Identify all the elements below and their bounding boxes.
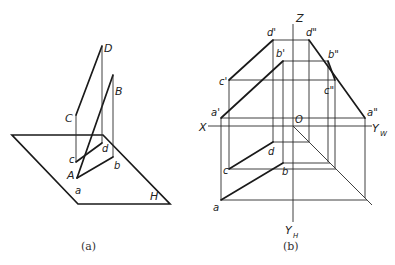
label-c: c [223, 165, 229, 176]
label-a: a [75, 185, 81, 196]
label-YW-sub: W [380, 130, 388, 138]
label-d-dprime: d" [306, 27, 317, 38]
label-H: H [150, 190, 158, 203]
label-YH-sub: H [293, 232, 299, 240]
label-C: C [65, 112, 73, 125]
label-YH: Y [285, 224, 293, 237]
label-Z: Z [295, 12, 304, 25]
projection-diagram: D B C c d b A a H (a) [0, 0, 395, 265]
line-ab [77, 75, 113, 178]
caption-a: (a) [81, 240, 96, 253]
label-O: O [295, 114, 303, 125]
label-a-dprime: a" [367, 107, 378, 118]
line-c-d-prime [229, 40, 273, 80]
label-b-prime: b' [276, 48, 285, 59]
label-c-dprime: c" [324, 85, 334, 96]
label-b: b [114, 160, 120, 171]
label-c-prime: c' [219, 76, 227, 87]
figure-b: Z X O Y W Y H d' b' c' a' d" b" c" a" d … [198, 12, 388, 253]
label-b-dprime: b" [328, 49, 339, 60]
line-cd-h [229, 142, 273, 169]
figure-a: D B C c d b A a H (a) [12, 42, 170, 253]
label-D: D [104, 42, 112, 55]
label-A: A [66, 169, 75, 182]
caption-b: (b) [283, 240, 299, 253]
line-b-c-dprime [328, 61, 335, 80]
label-c: c [69, 154, 75, 165]
label-d: d [102, 143, 109, 154]
label-YW: Y [372, 122, 380, 135]
label-d: d [268, 146, 275, 157]
label-a-prime: a' [211, 107, 220, 118]
line-cd [76, 46, 102, 115]
label-X: X [198, 121, 207, 134]
label-b: b [282, 166, 288, 177]
label-B: B [115, 85, 123, 98]
label-a: a [213, 202, 219, 213]
diagonal-45 [293, 126, 372, 205]
line-a-b-prime [221, 61, 283, 118]
label-d-prime: d' [267, 27, 276, 38]
